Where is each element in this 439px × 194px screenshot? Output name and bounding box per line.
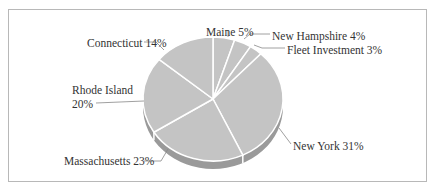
leader-line (279, 128, 291, 144)
label-fleet-investment: Fleet Investment 3% (287, 44, 382, 57)
label-connecticut: Connecticut 14% (87, 37, 167, 50)
label-new-york: New York 31% (293, 140, 364, 153)
label-new-hampshire: New Hampshire 4% (272, 30, 365, 43)
label-rhode-island-pct: 20% (72, 98, 93, 111)
label-massachusetts: Massachusetts 23% (64, 155, 154, 168)
label-rhode-island: Rhode Island (72, 84, 133, 97)
label-maine: Maine 5% (206, 26, 254, 39)
leader-line (254, 45, 285, 48)
leader-line (96, 101, 144, 103)
